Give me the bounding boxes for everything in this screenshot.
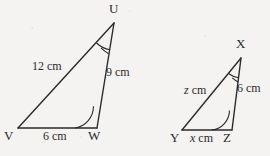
angle-arc-u: [97, 43, 111, 54]
side-label-uv: 12 cm: [32, 60, 62, 72]
side-label-yz-unit: cm: [195, 131, 213, 145]
side-label-xy-unit: cm: [189, 83, 207, 97]
angle-arc-w-path: [75, 106, 94, 128]
vertex-label-z: Z: [223, 131, 231, 144]
angle-arc-w: [75, 106, 94, 128]
angle-arc-z: [212, 111, 230, 131]
side-label-uw: 9 cm: [106, 66, 130, 78]
vertex-label-x: X: [236, 37, 245, 50]
geometry-figure: U V W 12 cm 9 cm 6 cm X Y Z z cm 6 cm x …: [0, 0, 270, 156]
triangle-uvw-shape: [18, 23, 114, 128]
angle-arc-x-outer: [229, 74, 239, 78]
side-label-xz: 6 cm: [237, 82, 261, 94]
side-label-yz: x cm: [190, 132, 213, 144]
vertex-label-v: V: [4, 129, 13, 142]
side-label-vw: 6 cm: [43, 130, 67, 142]
side-label-xy: z cm: [184, 84, 206, 96]
angle-arc-z-path: [212, 111, 230, 131]
vertex-label-u: U: [109, 2, 118, 15]
angle-arc-u-outer: [97, 43, 111, 50]
vertex-label-w: W: [88, 129, 100, 142]
vertex-label-y: Y: [170, 131, 179, 144]
